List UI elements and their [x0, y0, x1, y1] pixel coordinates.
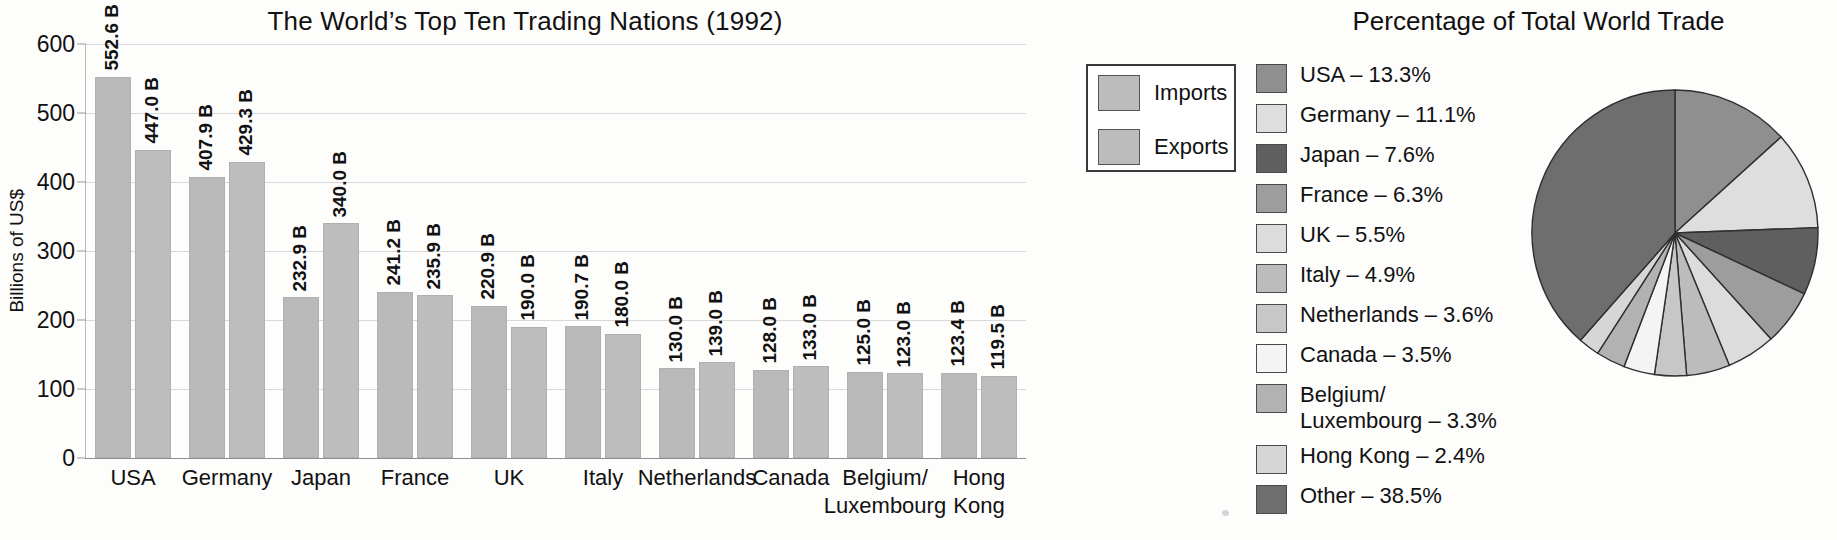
- bar-value-label: 447.0 B: [142, 77, 161, 144]
- bar-value-label: 407.9 B: [196, 104, 215, 171]
- bar-exports: [887, 373, 923, 458]
- y-axis-tick-label: 300: [37, 238, 75, 265]
- pie-legend-item: Germany – 11.1%: [1256, 102, 1556, 133]
- pie-legend-swatch: [1256, 64, 1287, 93]
- pie-legend-item: Belgium/Luxembourg – 3.3%: [1256, 382, 1556, 434]
- pie-legend-swatch: [1256, 144, 1287, 173]
- bar-imports: [847, 372, 883, 458]
- speck-artifact: [1222, 510, 1229, 516]
- pie-chart-legend: USA – 13.3%Germany – 11.1%Japan – 7.6%Fr…: [1256, 62, 1556, 523]
- bar-exports: [981, 376, 1017, 458]
- y-axis-tick-mark: [77, 113, 86, 114]
- legend-label-exports: Exports: [1154, 134, 1229, 160]
- x-axis-category-line: USA: [110, 465, 155, 490]
- y-axis-tick-label: 200: [37, 307, 75, 334]
- pie-legend-swatch: [1256, 445, 1287, 474]
- pie-legend-label-line: Germany – 11.1%: [1300, 102, 1476, 127]
- legend-item-imports: Imports: [1088, 66, 1234, 120]
- y-axis-tick-label: 400: [37, 169, 75, 196]
- y-axis-tick-mark: [77, 320, 86, 321]
- pie-legend-label: Germany – 11.1%: [1300, 102, 1476, 128]
- x-axis-category-line: Canada: [752, 465, 829, 490]
- y-axis-label-text: Billions of US$: [6, 189, 28, 313]
- pie-legend-label-line: Japan – 7.6%: [1300, 142, 1435, 167]
- legend-label-imports: Imports: [1154, 80, 1227, 106]
- x-axis-category-line: France: [381, 465, 449, 490]
- bar-exports: [229, 162, 265, 458]
- bar-value-label: 119.5 B: [988, 304, 1007, 370]
- gridline: [86, 113, 1026, 114]
- bar-value-label: 180.0 B: [612, 261, 631, 328]
- y-axis-tick-mark: [77, 458, 86, 459]
- bar-value-label: 128.0 B: [760, 297, 779, 364]
- bar-value-label: 241.2 B: [384, 219, 403, 286]
- pie-legend-label: France – 6.3%: [1300, 182, 1443, 208]
- pie-legend-label-line: Belgium/: [1300, 382, 1386, 407]
- bar-value-label: 123.4 B: [948, 300, 967, 367]
- x-axis-category-line: UK: [494, 465, 525, 490]
- gridline: [86, 44, 1026, 45]
- bar-value-label: 139.0 B: [706, 290, 725, 357]
- gridline: [86, 320, 1026, 321]
- bar-value-label: 130.0 B: [666, 296, 685, 363]
- bar-exports: [135, 150, 171, 458]
- bar-plot-area: 0100200300400500600 552.6 B447.0 B407.9 …: [86, 44, 1026, 458]
- pie-legend-swatch: [1256, 224, 1287, 253]
- bar-imports: [377, 292, 413, 458]
- bar-value-label: 133.0 B: [800, 294, 819, 361]
- pie-legend-label-line: Luxembourg – 3.3%: [1300, 408, 1497, 433]
- bar-value-label: 190.0 B: [518, 254, 537, 321]
- pie-legend-label: Italy – 4.9%: [1300, 262, 1415, 288]
- pie-legend-label-line: Hong Kong – 2.4%: [1300, 443, 1485, 468]
- bar-value-label: 125.0 B: [854, 299, 873, 366]
- bar-exports: [323, 223, 359, 458]
- pie-legend-swatch: [1256, 344, 1287, 373]
- bar-imports: [941, 373, 977, 458]
- pie-legend-item: UK – 5.5%: [1256, 222, 1556, 253]
- bar-value-label: 190.7 B: [572, 254, 591, 321]
- y-axis-label: Billions of US$: [6, 44, 28, 458]
- pie-legend-label: USA – 13.3%: [1300, 62, 1431, 88]
- y-axis-tick-mark: [77, 44, 86, 45]
- bar-value-label: 340.0 B: [330, 151, 349, 218]
- bar-value-label: 220.9 B: [478, 233, 497, 300]
- pie-legend-item: Netherlands – 3.6%: [1256, 302, 1556, 333]
- bar-chart-panel: The World’s Top Ten Trading Nations (199…: [0, 0, 1240, 540]
- pie-legend-label-line: Canada – 3.5%: [1300, 342, 1452, 367]
- pie-legend-label-line: USA – 13.3%: [1300, 62, 1431, 87]
- bar-exports: [511, 327, 547, 458]
- bar-imports: [95, 77, 131, 458]
- gridline: [86, 389, 1026, 390]
- pie-legend-item: Italy – 4.9%: [1256, 262, 1556, 293]
- bar-value-label: 232.9 B: [290, 225, 309, 292]
- pie-legend-item: France – 6.3%: [1256, 182, 1556, 213]
- pie-legend-swatch: [1256, 485, 1287, 514]
- bar-chart-legend: Imports Exports: [1086, 64, 1236, 172]
- pie-legend-label-line: Netherlands – 3.6%: [1300, 302, 1493, 327]
- x-axis-category-label: HongKong: [914, 464, 1044, 519]
- x-axis-category-line: Japan: [291, 465, 351, 490]
- pie-legend-label: Canada – 3.5%: [1300, 342, 1452, 368]
- bar-exports: [605, 334, 641, 458]
- bar-imports: [659, 368, 695, 458]
- bar-value-label: 235.9 B: [424, 223, 443, 290]
- pie-chart-graphic: [1530, 88, 1820, 378]
- bar-value-label: 123.0 B: [894, 301, 913, 368]
- pie-legend-swatch: [1256, 104, 1287, 133]
- legend-swatch-imports: [1098, 75, 1140, 111]
- pie-legend-label-line: France – 6.3%: [1300, 182, 1443, 207]
- pie-legend-item: Hong Kong – 2.4%: [1256, 443, 1556, 474]
- pie-legend-item: Canada – 3.5%: [1256, 342, 1556, 373]
- bar-imports: [565, 326, 601, 458]
- bar-imports: [283, 297, 319, 458]
- pie-legend-swatch: [1256, 384, 1287, 413]
- bar-exports: [699, 362, 735, 458]
- legend-swatch-exports: [1098, 129, 1140, 165]
- y-axis-tick-mark: [77, 251, 86, 252]
- bar-imports: [471, 306, 507, 458]
- bar-chart-title: The World’s Top Ten Trading Nations (199…: [0, 6, 1050, 37]
- pie-legend-label: UK – 5.5%: [1300, 222, 1405, 248]
- pie-legend-label: Belgium/Luxembourg – 3.3%: [1300, 382, 1497, 434]
- pie-legend-label-line: UK – 5.5%: [1300, 222, 1405, 247]
- pie-chart-panel: Percentage of Total World Trade USA – 13…: [1240, 0, 1837, 540]
